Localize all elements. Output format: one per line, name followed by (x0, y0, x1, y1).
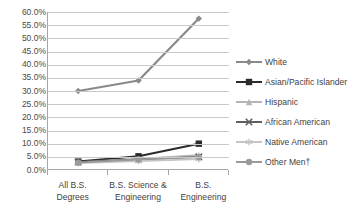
y-axis-tick-label: 0.0% (2, 166, 46, 175)
line-chart: 60.0%55.0%50.0%45.0%40.0%35.0%30.0%25.0%… (0, 0, 355, 222)
legend-item[interactable]: White (236, 52, 355, 72)
x-axis-category-label-line: B.S. Science & (105, 179, 170, 191)
data-point-marker-circle (246, 159, 252, 165)
gridline (48, 131, 229, 132)
data-point-marker-square (246, 79, 252, 85)
legend-item[interactable]: Native American (236, 132, 355, 152)
gridline (48, 12, 229, 13)
x-axis-category-label: B.S.Engineering (171, 177, 236, 219)
x-axis-category-labels: All B.S.DegreesB.S. Science &Engineering… (40, 177, 236, 219)
y-axis-tick-label: 10.0% (2, 139, 46, 148)
gridline (48, 65, 229, 66)
x-axis-tick-mark (168, 170, 169, 175)
data-point-marker-circle (75, 159, 81, 165)
x-axis-category-label-line: Engineering (171, 191, 236, 203)
legend-item[interactable]: Other Men† (236, 152, 355, 172)
legend-item[interactable]: Hispanic (236, 92, 355, 112)
chart-legend: WhiteAsian/Pacific IslanderHispanicAfric… (236, 52, 355, 172)
x-axis-tick-mark (228, 170, 229, 175)
gridline (48, 52, 229, 53)
data-point-marker-triangle (246, 99, 252, 105)
legend-key-x-icon (236, 115, 262, 129)
legend-key-marker (245, 158, 253, 166)
data-point-marker-asterisk (246, 139, 252, 145)
y-axis-tick-label: 45.0% (2, 47, 46, 56)
x-axis-tick-mark (107, 170, 108, 175)
gridline (48, 78, 229, 79)
gridline (48, 104, 229, 105)
legend-key-square-icon (236, 75, 262, 89)
gridline (48, 117, 229, 118)
gridline (48, 91, 229, 92)
legend-key-marker (245, 138, 253, 146)
y-axis-tick-label: 40.0% (2, 60, 46, 69)
legend-key-diamond-icon (236, 55, 262, 69)
x-axis-tick-mark (47, 170, 48, 175)
y-axis-tick-label: 60.0% (2, 8, 46, 17)
x-axis-category-label: All B.S.Degrees (40, 177, 105, 219)
legend-key-marker (245, 58, 253, 66)
legend-item-label: African American (265, 118, 330, 127)
gridline (48, 38, 229, 39)
plot-area (47, 12, 228, 170)
series-white (75, 15, 202, 94)
y-axis-tick-label: 20.0% (2, 113, 46, 122)
y-axis-tick-label: 25.0% (2, 100, 46, 109)
y-axis-tick-label: 55.0% (2, 21, 46, 30)
y-axis-tick-label: 30.0% (2, 87, 46, 96)
x-axis-category-label-line: Degrees (40, 191, 105, 203)
legend-key-asterisk-icon (236, 135, 262, 149)
x-axis-category-label-line: B.S. (171, 179, 236, 191)
legend-item-label: White (265, 58, 287, 67)
legend-key-marker (245, 78, 253, 86)
legend-item-label: Native American (265, 138, 328, 147)
gridline (48, 144, 229, 145)
legend-key-marker (245, 98, 253, 106)
x-axis-category-label: B.S. Science &Engineering (105, 177, 170, 219)
legend-item-label: Other Men† (265, 158, 310, 167)
legend-item-label: Asian/Pacific Islander (265, 78, 347, 87)
legend-item-label: Hispanic (265, 98, 298, 107)
y-axis-tick-label: 5.0% (2, 152, 46, 161)
legend-key-triangle-icon (236, 95, 262, 109)
x-axis-category-label-line: Engineering (105, 191, 170, 203)
x-axis-tick-marks (47, 170, 228, 175)
y-axis-tick-label: 50.0% (2, 34, 46, 43)
x-axis-category-label-line: All B.S. (40, 179, 105, 191)
gridline (48, 157, 229, 158)
legend-key-circle-icon (236, 155, 262, 169)
data-point-marker-x (246, 119, 252, 125)
legend-item[interactable]: African American (236, 112, 355, 132)
legend-key-marker (245, 118, 253, 126)
y-axis-tick-label: 15.0% (2, 126, 46, 135)
data-point-marker-diamond (246, 59, 252, 65)
y-axis-tick-label: 35.0% (2, 73, 46, 82)
gridline (48, 25, 229, 26)
legend-item[interactable]: Asian/Pacific Islander (236, 72, 355, 92)
